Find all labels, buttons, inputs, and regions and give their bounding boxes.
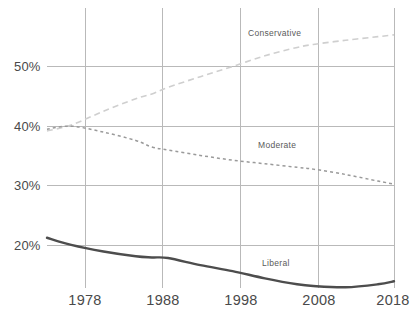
series-label-conservative: Conservative	[248, 28, 301, 38]
ytick-label-30: 30%	[14, 178, 41, 193]
series-label-liberal: Liberal	[262, 258, 290, 268]
series-line-moderate	[47, 126, 394, 184]
xtick-label-2018: 2018	[376, 292, 409, 308]
series-line-conservative	[47, 35, 394, 131]
data-series-group	[47, 35, 394, 287]
ideology-trend-chart: 50% 40% 30% 20% 1978 1988 1998 2008 2018…	[0, 0, 418, 326]
ytick-label-50: 50%	[14, 59, 41, 74]
ytick-label-20: 20%	[14, 238, 41, 253]
xtick-label-2008: 2008	[302, 292, 335, 308]
x-axis-tick-labels: 1978 1988 1998 2008 2018	[68, 292, 409, 308]
series-label-moderate: Moderate	[258, 140, 296, 150]
xtick-label-1978: 1978	[68, 292, 101, 308]
horizontal-gridlines	[47, 67, 394, 246]
series-annotations: Conservative Moderate Liberal	[248, 28, 301, 268]
ytick-label-40: 40%	[14, 119, 41, 134]
y-axis-tick-labels: 50% 40% 30% 20%	[14, 59, 41, 253]
chart-canvas: 50% 40% 30% 20% 1978 1988 1998 2008 2018…	[0, 0, 418, 326]
xtick-label-1988: 1988	[146, 292, 179, 308]
xtick-label-1998: 1998	[224, 292, 257, 308]
